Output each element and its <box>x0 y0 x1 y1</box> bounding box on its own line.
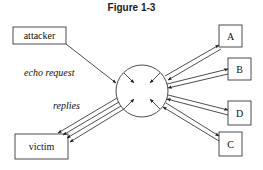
attacker-label: attacker <box>24 30 56 41</box>
attacker-node: attacker <box>13 27 66 44</box>
node-c-label: C <box>227 139 234 150</box>
replies-label: replies <box>53 100 80 111</box>
node-c: C <box>219 132 242 156</box>
node-d-label: D <box>236 108 243 119</box>
victim-node: victim <box>15 134 68 159</box>
node-a: A <box>219 25 242 47</box>
node-d: D <box>228 101 251 125</box>
node-b-label: B <box>236 64 243 75</box>
victim-label: victim <box>29 141 55 152</box>
echo-request-label: echo request <box>24 67 75 78</box>
smurf-attack-diagram: attacker victim A B D C <box>0 0 263 170</box>
broadcast-arrows <box>163 45 228 141</box>
node-b: B <box>228 58 251 80</box>
node-a-label: A <box>227 31 235 42</box>
